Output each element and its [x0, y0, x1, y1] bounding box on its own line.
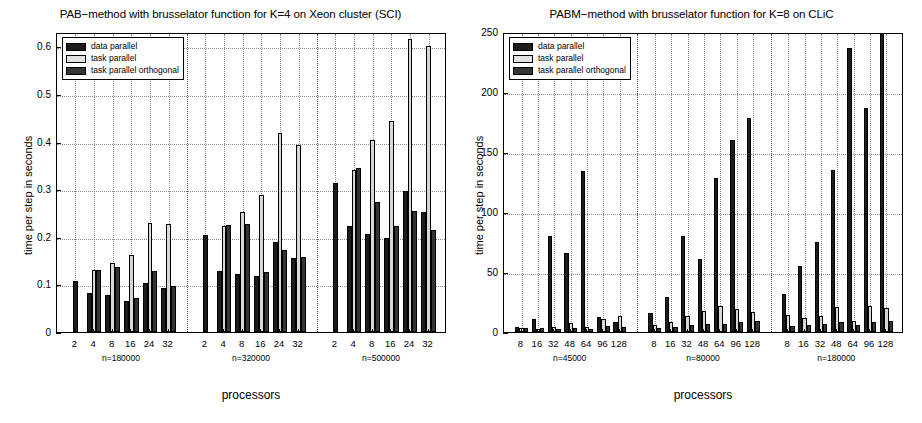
- x-axis-tick-label: 32: [414, 338, 442, 349]
- y-axis-tick-label: 200: [469, 87, 498, 98]
- bar: [115, 267, 120, 332]
- bar: [96, 270, 101, 332]
- y-axis-tick-mark: [503, 153, 508, 154]
- x-axis-tick-mark: [260, 329, 261, 333]
- y-axis-tick-mark: [56, 190, 61, 191]
- bar: [706, 324, 710, 332]
- bar: [657, 328, 661, 332]
- bar: [807, 325, 811, 332]
- legend-label: task parallel: [538, 54, 583, 63]
- gridline-vertical: [753, 34, 754, 332]
- x-axis-tick-mark: [242, 329, 243, 333]
- bar: [394, 226, 399, 332]
- legend-item: data parallel: [513, 41, 626, 52]
- y-axis-tick-label: 0: [22, 327, 51, 338]
- x-axis-tick-mark: [279, 329, 280, 333]
- y-axis-tick-mark: [56, 333, 61, 334]
- x-axis-tick-label: 128: [605, 338, 633, 349]
- group-separator: [317, 34, 318, 332]
- legend-label: data parallel: [538, 42, 584, 51]
- bar: [581, 171, 585, 332]
- legend-right: data parallel task parallel task paralle…: [509, 37, 631, 80]
- y-axis-tick-mark: [503, 333, 508, 334]
- legend-item: data parallel: [66, 41, 179, 52]
- bar: [556, 329, 560, 332]
- y-axis-tick-label: 50: [469, 267, 498, 278]
- x-axis-tick-mark: [820, 329, 821, 333]
- x-axis-tick-mark: [853, 329, 854, 333]
- legend-swatch-task-parallel-icon: [513, 55, 533, 63]
- legend-swatch-data-parallel-icon: [66, 43, 86, 51]
- y-axis-tick-mark: [56, 47, 61, 48]
- gridline-horizontal: [504, 94, 902, 95]
- bar: [548, 236, 552, 332]
- x-axis-tick-mark: [619, 329, 620, 333]
- legend-label: task parallel: [91, 54, 136, 63]
- legend-left: data parallel task parallel task paralle…: [62, 37, 184, 80]
- x-axis-tick-mark: [409, 329, 410, 333]
- bar: [723, 324, 727, 332]
- x-axis-tick-mark: [586, 329, 587, 333]
- x-axis-tick-mark: [168, 329, 169, 333]
- x-axis-tick-mark: [112, 329, 113, 333]
- bar: [245, 224, 250, 332]
- legend-label: task parallel orthogonal: [538, 66, 626, 75]
- y-axis-tick-mark: [56, 285, 61, 286]
- x-axis-tick-mark: [223, 329, 224, 333]
- bar: [431, 230, 436, 332]
- x-axis-tick-mark: [428, 329, 429, 333]
- bar: [872, 322, 876, 332]
- y-axis-tick-label: 0.3: [22, 184, 51, 195]
- bar: [203, 235, 208, 332]
- y-axis-tick-label: 0.1: [22, 279, 51, 290]
- bar: [880, 33, 884, 332]
- bar: [747, 118, 751, 332]
- bar: [375, 202, 380, 332]
- bar: [152, 271, 157, 332]
- x-axis-tick-mark: [602, 329, 603, 333]
- legend-item: task parallel: [66, 53, 179, 64]
- bar: [540, 328, 544, 332]
- x-axis-tick-mark: [74, 329, 75, 333]
- x-axis-tick-mark: [719, 329, 720, 333]
- x-axis-label-left: processors: [56, 388, 446, 402]
- gridline-vertical: [821, 34, 822, 332]
- x-axis-tick-mark: [804, 329, 805, 333]
- gridline-vertical: [886, 34, 887, 332]
- figure-right: PABM−method with brusselator function fo…: [461, 0, 922, 423]
- legend-label: task parallel orthogonal: [91, 66, 179, 75]
- x-axis-tick-mark: [570, 329, 571, 333]
- gridline-vertical: [805, 34, 806, 332]
- y-axis-tick-mark: [56, 143, 61, 144]
- bar: [589, 329, 593, 332]
- legend-item: task parallel orthogonal: [513, 65, 626, 76]
- x-axis-tick-label: 32: [284, 338, 312, 349]
- group-label: n=80000: [636, 353, 769, 363]
- bar: [564, 253, 568, 332]
- y-axis-tick-mark: [503, 93, 508, 94]
- y-axis-tick-mark: [56, 238, 61, 239]
- gridline-vertical: [688, 34, 689, 332]
- gridline-vertical: [655, 34, 656, 332]
- legend-swatch-task-parallel-orthogonal-icon: [513, 67, 533, 75]
- gridline-vertical: [837, 34, 838, 332]
- x-axis-tick-mark: [752, 329, 753, 333]
- group-label: n=180000: [56, 353, 186, 363]
- x-axis-tick-mark: [149, 329, 150, 333]
- gridline-vertical: [720, 34, 721, 332]
- bar: [573, 328, 577, 332]
- bar: [264, 272, 269, 332]
- gridline-horizontal: [57, 191, 445, 192]
- gridline-horizontal: [57, 144, 445, 145]
- y-axis-tick-mark: [503, 213, 508, 214]
- bar: [673, 327, 677, 332]
- gridline-horizontal: [504, 154, 902, 155]
- legend-swatch-task-parallel-icon: [66, 55, 86, 63]
- y-axis-tick-label: 0.5: [22, 89, 51, 100]
- chart-title-left: PAB−method with brusselator function for…: [0, 8, 461, 20]
- gridline-vertical: [788, 34, 789, 332]
- x-axis-label-right: processors: [503, 388, 903, 402]
- group-separator: [637, 34, 638, 332]
- x-axis-tick-mark: [204, 329, 205, 333]
- x-axis-tick-mark: [537, 329, 538, 333]
